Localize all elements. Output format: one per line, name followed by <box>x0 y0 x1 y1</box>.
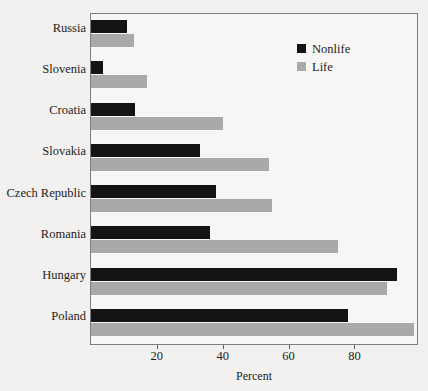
bar-life-romania <box>91 240 338 253</box>
bar-life-slovakia <box>91 158 269 171</box>
y-axis-label-romania: Romania <box>0 227 86 241</box>
legend-label-life: Life <box>312 60 333 74</box>
bar-life-poland <box>91 323 414 336</box>
bar-group-poland <box>91 303 417 344</box>
bar-nonlife-slovenia <box>91 61 103 74</box>
bar-group-slovakia <box>91 138 417 179</box>
bar-group-hungary <box>91 262 417 303</box>
legend-item-life: Life <box>297 59 350 74</box>
bar-life-croatia <box>91 117 223 130</box>
x-axis-ticks: 20406080 <box>91 345 417 369</box>
bar-series-container <box>91 14 417 344</box>
tick-label-60: 60 <box>282 349 295 364</box>
y-axis-label-russia: Russia <box>0 21 86 35</box>
bar-nonlife-hungary <box>91 268 397 281</box>
legend-item-nonlife: Nonlife <box>297 41 350 56</box>
legend-swatch-nonlife <box>297 44 306 53</box>
y-axis-labels: RussiaSloveniaCroatiaSlovakiaCzech Repub… <box>0 14 86 344</box>
bar-nonlife-czech-republic <box>91 185 216 198</box>
y-axis-label-poland: Poland <box>0 309 86 323</box>
tick-label-20: 20 <box>151 349 164 364</box>
bar-life-slovenia <box>91 75 147 88</box>
bar-nonlife-poland <box>91 309 348 322</box>
bar-nonlife-croatia <box>91 103 135 116</box>
bar-group-croatia <box>91 97 417 138</box>
bar-life-hungary <box>91 282 387 295</box>
bar-group-russia <box>91 14 417 55</box>
y-axis-label-slovakia: Slovakia <box>0 144 86 158</box>
bar-nonlife-romania <box>91 226 210 239</box>
y-axis-label-slovenia: Slovenia <box>0 62 86 76</box>
y-axis-label-hungary: Hungary <box>0 268 86 282</box>
bar-group-slovenia <box>91 55 417 96</box>
bar-chart: RussiaSloveniaCroatiaSlovakiaCzech Repub… <box>0 0 428 391</box>
y-axis-label-czech-republic: Czech Republic <box>0 186 86 200</box>
tick-label-40: 40 <box>216 349 229 364</box>
tick-label-80: 80 <box>348 349 361 364</box>
bar-nonlife-slovakia <box>91 144 200 157</box>
bar-life-czech-republic <box>91 199 272 212</box>
bar-group-romania <box>91 220 417 261</box>
bar-group-czech-republic <box>91 179 417 220</box>
bar-nonlife-russia <box>91 20 127 33</box>
chart-legend: NonlifeLife <box>297 41 350 77</box>
y-axis-label-croatia: Croatia <box>0 103 86 117</box>
bar-life-russia <box>91 34 134 47</box>
x-axis-title: Percent <box>91 369 417 383</box>
legend-label-nonlife: Nonlife <box>312 42 350 56</box>
legend-swatch-life <box>297 62 306 71</box>
